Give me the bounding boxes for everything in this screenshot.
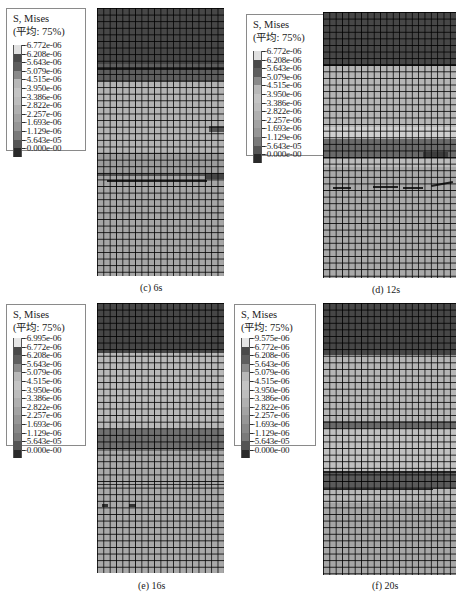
finite-element-mesh (97, 8, 224, 276)
legend-subtitle: (平均: 75%) (253, 32, 325, 44)
finite-element-mesh (323, 303, 456, 575)
legend-label: -0.000e-00 (24, 144, 61, 153)
legend-subtitle: (平均: 75%) (13, 26, 85, 38)
caption-e: (e) 16s (138, 580, 166, 591)
legend-label: -0.000e-00 (264, 150, 301, 159)
caption-c: (c) 6s (140, 282, 163, 293)
contour-panel-e (97, 303, 224, 573)
contour-panel-f (323, 303, 456, 575)
legend-c: S, Mises (平均: 75%) -6.772e-06 -6.208e-06… (6, 8, 86, 151)
legend-title: S, Mises (241, 309, 315, 321)
finite-element-mesh (323, 12, 456, 278)
legend-f: S, Mises (平均: 75%) -9.575e-06 -6.772e-06… (234, 304, 316, 446)
legend-label: -0.000e-00 (252, 446, 289, 455)
caption-d: (d) 12s (372, 284, 400, 295)
legend-label: -0.000e-00 (24, 446, 61, 455)
legend-e: S, Mises (平均: 75%) -6.995e-06 -6.772e-06… (6, 304, 86, 446)
finite-element-mesh (97, 303, 224, 573)
contour-panel-d (323, 12, 456, 278)
legend-title: S, Mises (13, 309, 85, 321)
legend-d: S, Mises (平均: 75%) -6.772e-06 -6.208e-06… (246, 14, 326, 156)
caption-f: (f) 20s (372, 580, 398, 591)
legend-title: S, Mises (13, 13, 85, 25)
legend-title: S, Mises (253, 19, 325, 31)
contour-panel-c (97, 8, 224, 276)
